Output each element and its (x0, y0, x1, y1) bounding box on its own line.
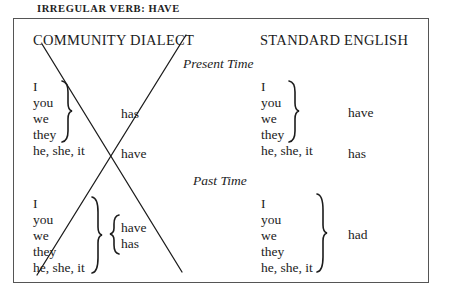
braces-and-crossout (0, 0, 452, 299)
left-brace-icon (110, 215, 119, 254)
right-brace-icon (317, 194, 327, 272)
crossout-line-icon (42, 44, 182, 272)
right-brace-icon (289, 81, 299, 142)
crossout-line-icon (37, 35, 186, 275)
right-brace-icon (92, 197, 102, 273)
